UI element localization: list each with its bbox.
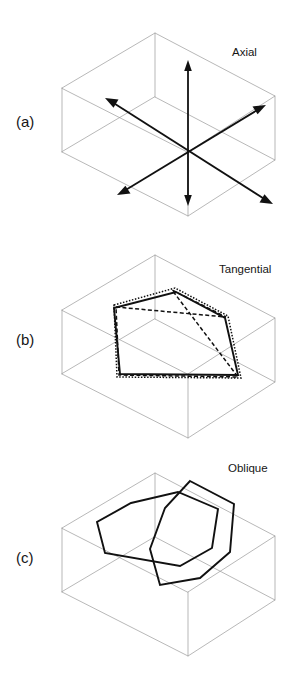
mode-title-tangential: Tangential: [219, 263, 271, 275]
panel-b-tangential: (b) Tangential: [16, 255, 275, 438]
mode-title-axial: Axial: [232, 46, 257, 58]
box-top-face-c: [62, 473, 275, 592]
tangential-path-dotted: [114, 288, 241, 378]
wireframe-box-b: [62, 255, 275, 438]
panel-c-oblique: (c) Oblique: [16, 462, 275, 656]
tangential-path-solid: [114, 292, 238, 375]
oblique-paths: [97, 481, 234, 585]
axial-arrowhead-depth-back: [105, 98, 119, 108]
wireframe-box-a: [62, 33, 275, 216]
axial-arrowhead-depth-front: [260, 194, 274, 204]
panel-a-axial: (a) Axial: [16, 33, 275, 216]
oblique-path-1: [150, 481, 234, 585]
axial-arrowhead-up: [184, 60, 192, 71]
axial-arrowhead-width-left: [117, 186, 131, 195]
panel-letter-a: (a): [16, 113, 34, 130]
axial-arrow-width: [124, 109, 259, 191]
box-bottom-face-c: [62, 537, 275, 656]
figure-root: (a) Axial (b) Tangential: [0, 0, 305, 682]
panel-letter-b: (b): [16, 331, 34, 348]
tangential-paths: [114, 288, 241, 378]
axial-arrowhead-down: [184, 195, 192, 206]
panel-letter-c: (c): [16, 549, 34, 566]
room-mode-figure: (a) Axial (b) Tangential: [0, 0, 305, 682]
box-bottom-face-b: [62, 319, 275, 438]
box-bottom-face-a: [62, 97, 275, 216]
mode-title-oblique: Oblique: [228, 462, 268, 474]
axial-arrowhead-width-right: [253, 105, 267, 114]
